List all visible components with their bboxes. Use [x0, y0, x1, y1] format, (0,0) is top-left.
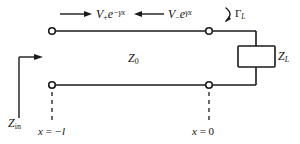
- terminal-node-top-right: [206, 28, 213, 35]
- position-label-right: x = 0: [192, 126, 214, 137]
- reflection-coefficient-label: ΓL: [235, 8, 245, 21]
- reverse-wave-label: V−eγx: [168, 8, 192, 22]
- load-impedance-box: [238, 46, 275, 67]
- characteristic-impedance-label: Z0: [128, 52, 139, 66]
- curved-arc-icon-reflection: [225, 8, 231, 22]
- input-impedance-bracket: [19, 54, 43, 118]
- forward-wave-label: V+e−γx: [96, 8, 125, 22]
- arrow-right-icon-forward-wave: [60, 11, 92, 17]
- terminal-node-top-left: [49, 28, 56, 35]
- terminal-node-bottom-left: [49, 82, 56, 89]
- input-impedance-label: Zin: [8, 117, 21, 131]
- arrow-left-icon-reverse-wave: [134, 11, 164, 17]
- diagram-canvas: [0, 0, 300, 144]
- position-label-left: x = −l: [38, 126, 65, 137]
- load-impedance-label: ZL: [278, 50, 289, 64]
- transmission-line-diagram: V+e−γx V−eγx ΓL Z0 ZL Zin x = −l x = 0: [0, 0, 300, 144]
- terminal-node-bottom-right: [206, 82, 213, 89]
